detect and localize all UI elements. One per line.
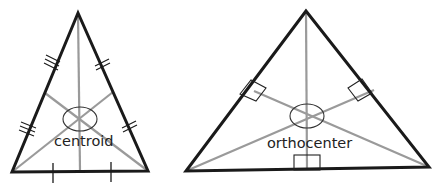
geometry-diagram: centroid orthocenter bbox=[0, 0, 437, 187]
centroid-figure: centroid bbox=[12, 13, 148, 183]
centroid-label: centroid bbox=[54, 133, 114, 149]
orthocenter-figure: orthocenter bbox=[186, 11, 429, 171]
orthocenter-label: orthocenter bbox=[267, 135, 352, 151]
altitude-from-right bbox=[254, 91, 429, 167]
